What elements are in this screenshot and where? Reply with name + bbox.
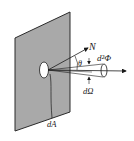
theta-label: θ (78, 59, 82, 68)
normal-label: N (88, 41, 97, 52)
area-label: dA (47, 119, 57, 129)
area-element (40, 62, 49, 78)
solid-angle-label: dΩ (83, 86, 93, 96)
radiance-diagram: N θ d²Φ dΩ dA (0, 0, 134, 141)
flux-label: d²Φ (97, 53, 111, 63)
